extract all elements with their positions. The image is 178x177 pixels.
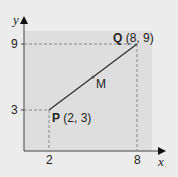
x-tick-2: 2: [46, 154, 53, 166]
point-m-label: M: [96, 78, 106, 90]
y-tick-3: 3: [11, 104, 18, 116]
y-axis-label: y: [13, 13, 19, 26]
point-p-coords: (2, 3): [63, 111, 91, 125]
y-tick-9: 9: [11, 38, 18, 50]
x-axis-label: x: [158, 155, 164, 168]
point-p-label: P (2, 3): [52, 112, 91, 124]
point-q-coords: (8, 9): [126, 31, 154, 45]
point-q-label: Q (8, 9): [113, 32, 154, 44]
x-tick-8: 8: [134, 154, 141, 166]
midpoint-m-marker: [91, 75, 94, 78]
point-q-name: Q: [113, 31, 122, 45]
diagram-canvas: [0, 0, 178, 177]
point-p-name: P: [52, 111, 60, 125]
shaded-panel: [24, 31, 152, 151]
y-axis-arrow-icon: [20, 16, 28, 24]
